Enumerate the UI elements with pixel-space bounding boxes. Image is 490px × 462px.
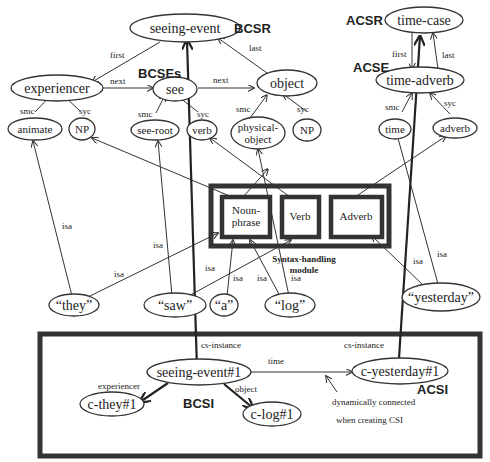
svg-text:“yesterday”: “yesterday” (408, 290, 474, 305)
edge-label-smc-4: smc (385, 102, 400, 112)
edge-label-isa-they-np: isa (114, 269, 124, 279)
node-adverb: adverb (433, 118, 477, 138)
edge-experiencer (140, 383, 168, 402)
node-word-they: “they” (49, 294, 99, 316)
node-word-log: “log” (265, 293, 315, 317)
edge-label-isa-log-phys: isa (291, 273, 301, 283)
label-acse: ACSE (353, 60, 389, 75)
node-np-1: NP (69, 118, 95, 140)
svg-text:object: object (270, 76, 304, 91)
svg-text:physical-: physical- (238, 121, 279, 133)
node-c-yesterday-1: c-yesterday#1 (352, 358, 448, 384)
svg-text:see-root: see-root (137, 124, 172, 136)
edge-label-next-1: next (110, 76, 126, 86)
edge-smc-4 (402, 93, 412, 112)
label-bcsr: BCSR (234, 21, 271, 36)
svg-text:see: see (166, 82, 184, 97)
label-syntax-module-1: Syntax-handling (272, 254, 336, 264)
svg-text:object: object (245, 133, 272, 145)
edge-label-last: last (249, 43, 262, 53)
edge-label-time: time (268, 356, 284, 366)
svg-text:“log”: “log” (275, 298, 305, 313)
svg-text:verb: verb (192, 124, 212, 136)
edge-label-acsr-last: last (442, 50, 455, 60)
edge-label-cs-instance-1: cs-instance (201, 340, 241, 350)
label-acsi: ACSI (417, 382, 448, 397)
edge-label-first: first (110, 50, 125, 60)
node-experiencer: experiencer (11, 75, 103, 101)
edge-label-isa-log-np: isa (257, 273, 267, 283)
edge-label-acsr-first: first (392, 49, 407, 59)
edge-label-next-2: next (213, 75, 229, 85)
svg-text:c-they#1: c-they#1 (88, 397, 137, 412)
annotation-line-1: dynamically connected (332, 397, 416, 407)
svg-text:time-case: time-case (397, 13, 451, 28)
node-animate: animate (8, 118, 62, 140)
svg-text:experiencer: experiencer (24, 81, 90, 96)
svg-text:“a”: “a” (215, 298, 234, 313)
edge-label-object: object (235, 384, 257, 394)
edge-label-syc-1: syc (79, 106, 91, 116)
label-acsr: ACSR (346, 13, 383, 28)
adverb-box-label: Adverb (340, 210, 373, 222)
label-bcses: BCSEs (138, 66, 181, 81)
node-seeing-event: seeing-event (130, 14, 240, 42)
edge-label-syc-2: syc (197, 109, 209, 119)
annotation-line-2: when creating CSI (336, 415, 403, 425)
edge-label-cs-instance-2: cs-instance (344, 340, 384, 350)
svg-text:time: time (385, 123, 405, 135)
edge-label-experiencer: experiencer (98, 381, 140, 391)
node-verb: verb (187, 120, 217, 140)
edge-label-isa-yest-adverb: isa (413, 256, 423, 266)
node-c-they-1: c-they#1 (80, 392, 144, 416)
edge-label-isa-yest-time: isa (437, 249, 447, 259)
edge-annotation-pointer (326, 376, 337, 392)
edge-nounphrase-np2 (243, 169, 268, 197)
node-word-a: “a” (210, 294, 238, 316)
verb-box-label: Verb (290, 210, 311, 222)
svg-text:NP: NP (300, 124, 314, 136)
edge-label-smc-2: smc (138, 109, 153, 119)
svg-text:c-log#1: c-log#1 (251, 407, 294, 422)
edge-label-smc-3: smc (236, 104, 251, 114)
edge-isa-saw-verbbox (185, 240, 291, 298)
edge-label-isa-they-animate: isa (62, 221, 72, 231)
noun-phrase-label-1: Noun- (232, 204, 260, 216)
node-word-yesterday: “yesterday” (402, 283, 480, 311)
noun-phrase-label-2: phrase (232, 216, 261, 228)
edge-label-isa-saw-verb: isa (205, 263, 215, 273)
edge-isa-they-animate (33, 141, 72, 296)
edge-label-isa-a: isa (233, 273, 243, 283)
knowledge-structure-diagram: seeing-event experiencer see object anim… (0, 0, 490, 462)
edge-smc-3 (250, 95, 267, 118)
edge-isa-saw-seeroot (158, 141, 172, 296)
node-np-2: NP (293, 119, 321, 141)
edge-adverbbox-adverb (355, 136, 446, 197)
svg-text:seeing-event: seeing-event (150, 21, 221, 36)
node-seeing-event-1: seeing-event#1 (147, 359, 251, 385)
svg-text:NP: NP (75, 123, 89, 135)
label-bcsi: BCSI (183, 396, 214, 411)
svg-text:adverb: adverb (440, 122, 470, 134)
svg-text:animate: animate (18, 123, 53, 135)
node-word-saw: “saw” (144, 293, 206, 317)
svg-text:“they”: “they” (56, 298, 93, 313)
edge-label-syc-3: syc (297, 104, 309, 114)
node-time-case: time-case (385, 7, 463, 33)
node-object: object (257, 70, 317, 96)
svg-text:time-adverb: time-adverb (386, 73, 454, 88)
edge-acsr-last (433, 33, 438, 69)
edge-label-syc-4: syc (444, 98, 456, 108)
edge-label-smc-1: smc (20, 106, 35, 116)
node-time-adverb: time-adverb (376, 67, 464, 93)
svg-text:c-yesterday#1: c-yesterday#1 (361, 364, 440, 379)
node-physical-object: physical- object (231, 117, 285, 149)
svg-text:seeing-event#1: seeing-event#1 (157, 365, 242, 380)
svg-text:“saw”: “saw” (158, 298, 192, 313)
node-c-log-1: c-log#1 (243, 402, 301, 426)
node-time: time (379, 119, 411, 139)
node-see-root: see-root (131, 120, 179, 140)
edge-label-isa-saw-root: isa (153, 240, 163, 250)
